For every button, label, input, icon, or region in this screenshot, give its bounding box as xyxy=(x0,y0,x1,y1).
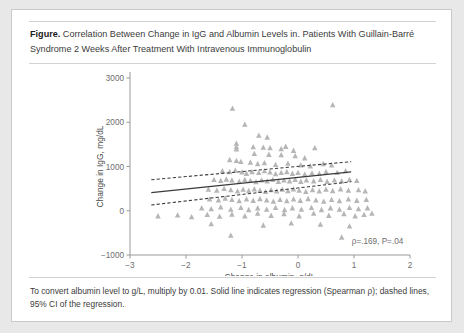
data-point xyxy=(364,197,370,202)
data-point xyxy=(175,212,181,217)
data-point xyxy=(229,197,235,202)
data-point xyxy=(339,234,345,239)
data-point xyxy=(261,222,267,227)
data-point xyxy=(218,204,224,209)
figure-footnote: To convert albumin level to g/L, multipl… xyxy=(30,285,434,311)
data-point xyxy=(227,157,233,162)
figure-card: Figure. Correlation Between Change in Ig… xyxy=(11,9,452,322)
data-point xyxy=(220,168,226,173)
data-point xyxy=(311,210,317,215)
data-point xyxy=(229,177,235,182)
data-point xyxy=(229,211,235,216)
data-point xyxy=(250,144,256,149)
data-point xyxy=(321,198,327,203)
x-tick-label: −3 xyxy=(125,261,135,270)
data-point xyxy=(337,198,343,203)
data-point xyxy=(261,144,267,149)
data-point xyxy=(362,188,368,193)
data-point xyxy=(369,210,375,215)
y-tick-label: 3000 xyxy=(106,74,125,83)
data-point xyxy=(230,106,236,111)
x-tick-label: −2 xyxy=(181,261,191,270)
data-point xyxy=(208,206,214,211)
data-point xyxy=(238,205,244,210)
data-point xyxy=(318,221,324,226)
data-point xyxy=(262,168,268,173)
data-point xyxy=(273,205,279,210)
data-point xyxy=(256,170,262,175)
data-point xyxy=(264,197,270,202)
data-point xyxy=(291,196,297,201)
data-point xyxy=(304,177,310,182)
data-point xyxy=(291,148,297,153)
data-point xyxy=(292,153,298,158)
data-point xyxy=(244,196,250,201)
data-point xyxy=(267,169,273,174)
data-point xyxy=(273,162,279,167)
data-point xyxy=(354,178,360,183)
data-point xyxy=(278,170,284,175)
data-point xyxy=(347,223,353,228)
data-point xyxy=(242,213,248,218)
data-point xyxy=(280,187,286,192)
data-point xyxy=(365,205,371,210)
data-markers-group xyxy=(155,102,374,240)
data-point xyxy=(267,145,273,150)
data-point xyxy=(354,198,360,203)
data-point xyxy=(346,196,352,201)
data-point xyxy=(337,206,343,211)
data-point xyxy=(309,170,315,175)
x-axis-title: Change in albumin, g/dL xyxy=(225,272,316,276)
data-point xyxy=(289,220,295,225)
data-point xyxy=(311,178,317,183)
data-point xyxy=(248,160,254,165)
x-tick-label: −1 xyxy=(237,261,247,270)
data-point xyxy=(238,159,244,164)
data-point xyxy=(211,177,217,182)
data-point xyxy=(255,161,261,166)
data-point xyxy=(189,214,195,219)
data-point xyxy=(356,187,362,192)
data-point xyxy=(361,212,367,217)
data-point xyxy=(312,145,318,150)
data-point xyxy=(242,121,248,126)
data-point xyxy=(255,210,261,215)
plot-svg: −10000100020003000−3−2−1012Change in alb… xyxy=(12,64,453,276)
data-point xyxy=(338,186,344,191)
data-point xyxy=(309,205,315,210)
data-point xyxy=(346,187,352,192)
data-point xyxy=(236,198,242,203)
data-point xyxy=(278,152,284,157)
correlation-annotation: ρ=.169, P=.04 xyxy=(352,237,404,246)
data-point xyxy=(347,205,353,210)
data-point xyxy=(249,169,255,174)
data-point xyxy=(302,155,308,160)
divider-footnote xyxy=(29,277,436,278)
data-point xyxy=(221,186,227,191)
data-point xyxy=(297,198,303,203)
regression-fit-line xyxy=(151,172,351,193)
data-point xyxy=(290,205,296,210)
data-point xyxy=(214,187,220,192)
data-point xyxy=(352,213,358,218)
data-point xyxy=(310,187,316,192)
data-point xyxy=(155,213,161,218)
data-point xyxy=(330,102,336,107)
data-point xyxy=(285,160,291,165)
data-point xyxy=(266,152,272,157)
data-point xyxy=(296,213,302,218)
data-point xyxy=(278,146,284,151)
data-point xyxy=(235,188,241,193)
figure-title: Figure. Correlation Between Change in Ig… xyxy=(30,27,438,57)
data-point xyxy=(257,196,263,201)
data-point xyxy=(323,169,329,174)
data-point xyxy=(324,179,330,184)
data-point xyxy=(334,170,340,175)
data-point xyxy=(234,158,240,163)
data-point xyxy=(246,188,252,193)
data-point xyxy=(252,186,258,191)
data-point xyxy=(319,207,325,212)
data-point xyxy=(228,233,234,238)
data-point xyxy=(281,177,287,182)
data-point xyxy=(228,206,234,211)
